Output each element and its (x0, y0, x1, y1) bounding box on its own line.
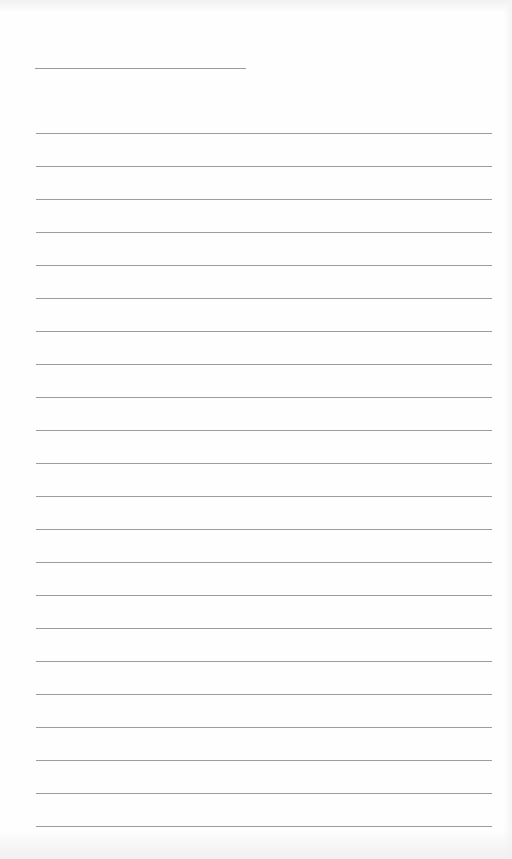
ruled-line (36, 232, 492, 233)
ruled-line (36, 661, 492, 662)
ruled-line (36, 760, 492, 761)
ruled-line (36, 133, 492, 134)
ruled-line (36, 595, 492, 596)
scan-shadow-right (504, 0, 512, 859)
ruled-line (36, 562, 492, 563)
ruled-line (36, 298, 492, 299)
ruled-line (36, 496, 492, 497)
ruled-line (36, 826, 492, 827)
ruled-line (36, 265, 492, 266)
scan-shadow-bottom (0, 829, 512, 859)
ruled-line (36, 331, 492, 332)
ruled-line (36, 199, 492, 200)
ruled-line (36, 430, 492, 431)
ruled-line (36, 628, 492, 629)
ruled-line (36, 166, 492, 167)
ruled-line (36, 694, 492, 695)
ruled-line (36, 727, 492, 728)
ruled-line (36, 529, 492, 530)
ruled-line (36, 463, 492, 464)
ruled-line (36, 364, 492, 365)
name-title-line (35, 68, 246, 69)
lined-paper-page (0, 0, 512, 859)
scan-shadow-top (0, 0, 512, 12)
ruled-line (36, 397, 492, 398)
ruled-line (36, 793, 492, 794)
